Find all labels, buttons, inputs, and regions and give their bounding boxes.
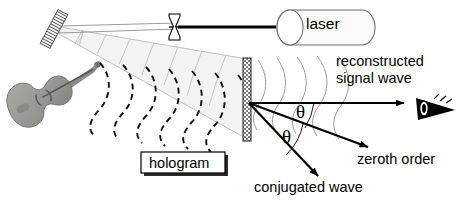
reconstructed-wave-label-line1: reconstructed [336,53,424,69]
diagram-svg [0,0,463,206]
conjugated-wave-label: conjugated wave [254,179,363,195]
theta-upper-label: θ [296,101,305,123]
violin-icon [0,50,113,133]
hologram-label: hologram [149,155,209,171]
reconstructed-wave-label-line2: signal wave [336,70,412,86]
zeroth-order-ray [249,103,368,147]
laser-label: laser [306,16,340,32]
reconstructed-wavefronts [253,56,348,139]
illumination-beam [59,27,247,139]
theta-lower-label: θ [282,126,291,148]
figure-canvas: laser hologram reconstructed signal wave… [0,0,463,206]
hologram-plate-icon [243,58,251,141]
zeroth-order-label: zeroth order [357,151,435,167]
eye-icon [416,94,455,120]
